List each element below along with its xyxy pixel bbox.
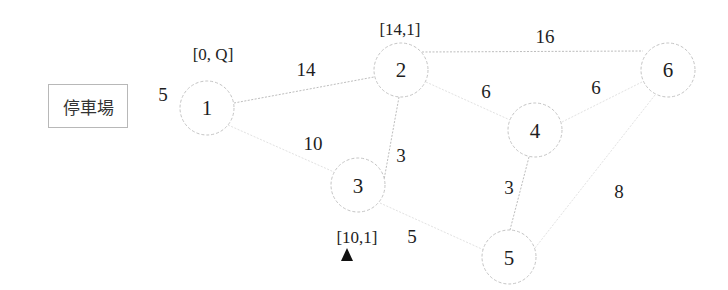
node-3-label: 3 (338, 174, 378, 198)
node-1-annotation: [0, Q] (193, 45, 234, 65)
edge-3-5 (380, 203, 484, 250)
edge-2-4-weight: 6 (481, 81, 491, 103)
edge-2-6 (422, 51, 643, 52)
node-2-label: 2 (381, 58, 421, 82)
edge-2-3 (384, 97, 399, 180)
edge-2-4 (426, 82, 510, 120)
edge-1-3-weight: 10 (304, 133, 323, 155)
depot-edge-weight: 5 (158, 84, 168, 106)
edge-2-6-weight: 16 (536, 26, 555, 48)
depot-box: 停車場 (48, 84, 128, 128)
node-1-label: 1 (187, 96, 227, 120)
edge-4-6-weight: 6 (591, 77, 601, 99)
edge-4-5-weight: 3 (504, 177, 514, 199)
depot-label: 停車場 (63, 94, 114, 119)
node-5-label: 5 (489, 246, 529, 270)
triangle-marker-icon (341, 248, 353, 261)
edge-2-3-weight: 3 (396, 145, 406, 167)
node-6-label: 6 (648, 58, 688, 82)
node-2-annotation: [14,1] (379, 20, 420, 40)
node-4-label: 4 (515, 119, 555, 143)
edge-4-6 (562, 82, 642, 122)
node-3-annotation: [10,1] (336, 228, 377, 248)
edge-3-5-weight: 5 (407, 226, 417, 248)
edge-1-2-weight: 14 (297, 59, 316, 81)
edge-6-5-weight: 8 (614, 181, 624, 203)
